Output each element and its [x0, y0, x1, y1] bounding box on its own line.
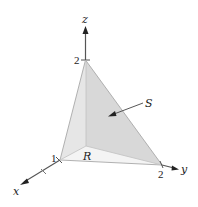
x-axis-label: x: [13, 185, 20, 198]
y-axis-arrowhead-icon: [172, 166, 180, 171]
surface-label: S: [145, 97, 153, 110]
region-label: R: [82, 150, 91, 163]
z-axis: [81, 26, 90, 60]
z-axis-label: z: [81, 13, 88, 26]
x-tick-label: 1: [51, 152, 57, 164]
z-tick-label: 2: [74, 54, 80, 66]
y-axis-label: y: [180, 163, 188, 176]
z-axis-arrowhead-icon: [83, 26, 89, 34]
tetrahedron-diagram: z 2 1 x 2 y S R: [0, 0, 198, 207]
y-tick-label: 2: [158, 168, 164, 180]
diagram-canvas: z 2 1 x 2 y S R: [0, 0, 198, 207]
